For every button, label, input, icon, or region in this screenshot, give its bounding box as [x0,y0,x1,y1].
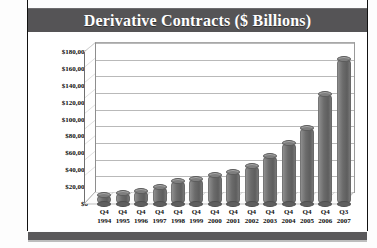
plot-area: $180,000$160,000$140,000$120,000$100,000… [46,42,364,227]
chart-title-banner: Derivative Contracts ($ Billions) [28,8,367,33]
bar [134,191,148,204]
bar-base-ellipse [337,201,351,207]
bar-top-ellipse [245,163,259,169]
bar-body [300,128,314,204]
x-axis-tick-labels: Q41994Q41995Q41996Q41997Q41998Q41999Q420… [84,208,366,232]
bar-body [263,156,277,204]
bar-base-ellipse [116,201,130,207]
bar-body [245,166,259,204]
bar-body [318,94,332,204]
bar-base-ellipse [153,201,167,207]
bar [263,156,277,204]
bar [153,187,167,204]
x-tick-quarter: Q3 [329,208,359,217]
bar-top-ellipse [263,153,277,159]
bar-base-ellipse [300,201,314,207]
bar-base-ellipse [245,201,259,207]
footer-strip [28,232,367,240]
bar-body [226,172,240,204]
page-title: Derivative Contracts ($ Billions) [28,9,367,33]
bar-top-ellipse [153,184,167,190]
bar-top-ellipse [300,125,314,131]
bar [208,175,222,204]
bar-base-ellipse [134,201,148,207]
bar-body [337,59,351,204]
bar [226,172,240,204]
bar-body [208,175,222,204]
bar-base-ellipse [171,201,185,207]
chart-card: $180,000$160,000$140,000$120,000$100,000… [28,32,367,231]
x-tick-year: 2007 [329,217,359,226]
bar [189,179,203,204]
bar [337,59,351,204]
bar-top-ellipse [97,192,111,198]
bar [116,193,130,204]
bar-base-ellipse [263,201,277,207]
y-axis-line [84,52,85,204]
bar-top-ellipse [116,190,130,196]
bar-top-ellipse [282,140,296,146]
bar-body [282,143,296,204]
bar [97,195,111,204]
bar-top-ellipse [226,169,240,175]
bar-top-ellipse [337,56,351,62]
x-tick-label: Q32007 [329,208,359,226]
frame-right-rule [367,0,368,231]
bar [282,143,296,204]
bar-series [95,42,353,204]
chart-screenshot: Derivative Contracts ($ Billions) $180,0… [0,0,377,248]
bar [318,94,332,204]
bar [245,166,259,204]
bar [171,181,185,204]
bar-base-ellipse [282,201,296,207]
bar-base-ellipse [208,201,222,207]
bar [300,128,314,204]
footer-strip-shadow [28,240,367,242]
bar-top-ellipse [189,176,203,182]
